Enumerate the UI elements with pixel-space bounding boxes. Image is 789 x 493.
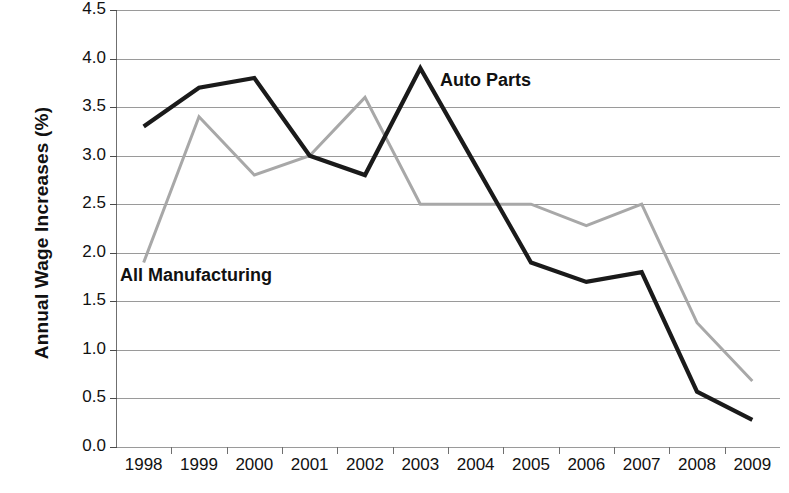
y-tick-mark bbox=[110, 59, 117, 60]
x-tick-mark bbox=[227, 447, 228, 454]
series-line-all-manufacturing bbox=[144, 97, 753, 381]
y-tick-mark bbox=[110, 107, 117, 108]
x-tick-mark bbox=[503, 447, 504, 454]
y-tick-mark bbox=[110, 10, 117, 11]
series-label-auto-parts: Auto Parts bbox=[440, 70, 531, 91]
x-axis-tick-labels: 1998199920002001200220032004200520062007… bbox=[116, 455, 780, 485]
x-tick-mark bbox=[337, 447, 338, 454]
x-tick-label: 2003 bbox=[390, 455, 450, 475]
x-tick-label: 1999 bbox=[169, 455, 229, 475]
y-tick-mark bbox=[110, 350, 117, 351]
x-tick-label: 2006 bbox=[556, 455, 616, 475]
x-tick-label: 2002 bbox=[335, 455, 395, 475]
x-tick-label: 2009 bbox=[722, 455, 782, 475]
y-tick-mark bbox=[110, 398, 117, 399]
y-tick-mark bbox=[110, 156, 117, 157]
x-tick-mark bbox=[559, 447, 560, 454]
x-tick-mark bbox=[725, 447, 726, 454]
x-tick-mark bbox=[282, 447, 283, 454]
x-tick-label: 2004 bbox=[446, 455, 506, 475]
y-tick-mark bbox=[110, 253, 117, 254]
x-tick-mark bbox=[614, 447, 615, 454]
x-tick-mark bbox=[448, 447, 449, 454]
x-tick-label: 2008 bbox=[667, 455, 727, 475]
x-tick-mark bbox=[171, 447, 172, 454]
series-label-all-manufacturing: All Manufacturing bbox=[120, 265, 272, 286]
x-tick-label: 2005 bbox=[501, 455, 561, 475]
x-tick-label: 2001 bbox=[280, 455, 340, 475]
y-tick-mark bbox=[110, 204, 117, 205]
x-tick-label: 1998 bbox=[114, 455, 174, 475]
y-tick-mark bbox=[110, 447, 117, 448]
x-tick-mark bbox=[393, 447, 394, 454]
wage-increase-line-chart: Annual Wage Increases (%) 0.00.51.01.52.… bbox=[0, 0, 789, 493]
y-tick-mark bbox=[110, 301, 117, 302]
x-tick-label: 2000 bbox=[224, 455, 284, 475]
series-lines bbox=[0, 0, 789, 493]
x-tick-label: 2007 bbox=[612, 455, 672, 475]
x-tick-mark bbox=[669, 447, 670, 454]
